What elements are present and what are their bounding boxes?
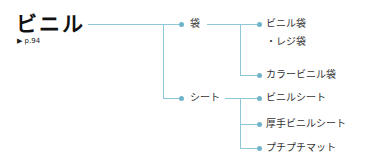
page-reference: ▶ p.94: [17, 37, 40, 46]
branch-label-bag: 袋: [190, 18, 200, 30]
node-dot: [179, 96, 184, 101]
connector-line: [163, 98, 180, 99]
node-dot: [257, 22, 262, 27]
connector-line: [240, 24, 241, 75]
connector-line: [163, 24, 164, 98]
connector-line: [225, 98, 258, 99]
node-dot: [257, 122, 262, 127]
node-dot: [257, 96, 262, 101]
node-dot: [257, 146, 262, 151]
node-dot: [257, 73, 262, 78]
root-title: ビニル: [16, 12, 85, 36]
connector-line: [240, 75, 258, 76]
node-dot: [179, 22, 184, 27]
connector-line: [240, 148, 258, 149]
leaf-label: ビニルシート: [266, 92, 326, 104]
connector-line: [240, 124, 258, 125]
leaf-note: ・レジ袋: [266, 36, 306, 48]
connector-line: [88, 24, 180, 25]
branch-label-sheet: シート: [190, 92, 220, 104]
leaf-label: カラービニル袋: [266, 69, 336, 81]
leaf-label: プチプチマット: [266, 142, 336, 154]
connector-line: [207, 24, 258, 25]
leaf-label: 厚手ビニルシート: [266, 118, 346, 130]
connector-line: [240, 98, 241, 148]
leaf-label: ビニル袋: [266, 18, 306, 30]
